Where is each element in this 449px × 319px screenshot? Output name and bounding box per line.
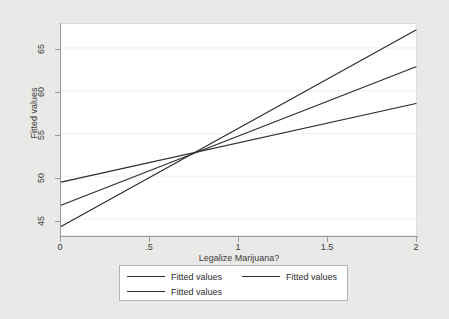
y-tick-mark-45 <box>55 221 60 222</box>
legend-line-swatch-icon <box>242 276 280 277</box>
legend-row-1: Fitted values Fitted values <box>120 269 347 284</box>
plot-area <box>60 23 417 235</box>
x-tick-label-1: 1 <box>225 242 251 252</box>
x-axis-title: Legalize Marijuana? <box>60 253 418 263</box>
y-axis-title: Fitted values <box>29 68 39 158</box>
x-tick-label-1-5: 1.5 <box>314 242 340 252</box>
gridlines <box>60 48 417 219</box>
fitted-line-3 <box>61 30 416 227</box>
y-tick-label-65: 65 <box>36 38 46 60</box>
legend-label-1: Fitted values <box>171 272 222 282</box>
chart-legend: Fitted values Fitted values Fitted value… <box>119 265 348 301</box>
x-tick-label-0-5: .5 <box>136 242 162 252</box>
y-tick-mark-55 <box>55 135 60 136</box>
legend-entry-1[interactable]: Fitted values <box>127 272 222 282</box>
y-tick-mark-50 <box>55 178 60 179</box>
plot-svg <box>60 24 417 236</box>
legend-row-2: Fitted values <box>120 284 347 299</box>
x-axis-line <box>60 236 418 237</box>
legend-label-3: Fitted values <box>171 287 222 297</box>
chart-figure: 65 60 55 50 45 Fitted values 0 .5 1 1.5 … <box>0 0 449 319</box>
y-tick-mark-60 <box>55 92 60 93</box>
fitted-lines <box>61 30 416 227</box>
y-tick-label-50: 50 <box>36 167 46 189</box>
legend-entry-2[interactable]: Fitted values <box>242 272 337 282</box>
fitted-line-2 <box>61 67 416 205</box>
x-tick-label-2: 2 <box>403 242 429 252</box>
legend-line-swatch-icon <box>127 276 165 277</box>
y-tick-label-45: 45 <box>36 210 46 232</box>
legend-line-swatch-icon <box>127 291 165 292</box>
legend-entry-3[interactable]: Fitted values <box>127 287 222 297</box>
fitted-line-1 <box>61 104 416 183</box>
legend-label-2: Fitted values <box>286 272 337 282</box>
x-tick-label-0: 0 <box>47 242 73 252</box>
y-axis-line <box>60 23 61 236</box>
y-tick-mark-65 <box>55 49 60 50</box>
